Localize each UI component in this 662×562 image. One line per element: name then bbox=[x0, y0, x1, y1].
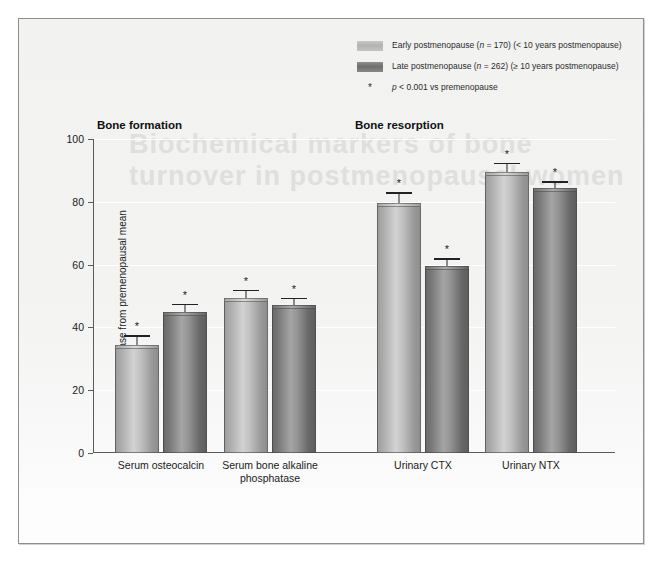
chart-plot-area: 020406080100 % increase from premenopaus… bbox=[93, 139, 615, 453]
error-bar-stem bbox=[399, 192, 400, 203]
category-label-3: Urinary NTX bbox=[456, 459, 606, 472]
error-bar-cap bbox=[281, 298, 307, 300]
error-bar bbox=[386, 192, 412, 203]
asterisk-icon: * bbox=[357, 82, 383, 93]
bar-top-ellipse bbox=[272, 305, 316, 309]
y-tick-80 bbox=[88, 202, 93, 203]
y-tick-20 bbox=[88, 390, 93, 391]
significance-asterisk: * bbox=[183, 291, 187, 299]
legend-swatch-late bbox=[357, 62, 383, 72]
y-tick-label-40: 40 bbox=[72, 321, 84, 333]
legend-footnote-text: p < 0.001 vs premenopause bbox=[392, 82, 498, 93]
y-tick-40 bbox=[88, 327, 93, 328]
significance-asterisk: * bbox=[445, 245, 449, 253]
legend-label-early: Early postmenopause (n = 170) (< 10 year… bbox=[392, 40, 622, 51]
figure-page: Biochemical markers of bone turnover in … bbox=[0, 0, 662, 562]
bar-rect bbox=[377, 203, 421, 453]
bar-early-1[interactable]: * bbox=[224, 139, 268, 453]
bar-rect bbox=[224, 298, 268, 453]
error-bar-cap bbox=[386, 192, 412, 194]
bar-early-3[interactable]: * bbox=[485, 139, 529, 453]
section-heading-bone-formation: Bone formation bbox=[97, 119, 182, 131]
error-bar bbox=[124, 335, 150, 344]
error-bar bbox=[542, 181, 568, 187]
bar-early-2[interactable]: * bbox=[377, 139, 421, 453]
error-bar bbox=[281, 298, 307, 306]
bar-top-ellipse bbox=[163, 312, 207, 316]
error-bar-cap bbox=[434, 258, 460, 260]
error-bar-cap bbox=[494, 163, 520, 165]
category-label-line: Serum bone alkaline bbox=[195, 459, 345, 472]
error-bar-cap bbox=[172, 304, 198, 306]
legend-significance-note: * p < 0.001 vs premenopause bbox=[357, 81, 622, 93]
significance-asterisk: * bbox=[553, 168, 557, 176]
bar-rect bbox=[272, 305, 316, 453]
bar-late-2[interactable]: * bbox=[425, 139, 469, 453]
y-tick-100 bbox=[88, 139, 93, 140]
y-tick-label-0: 0 bbox=[78, 447, 84, 459]
bar-top-ellipse bbox=[224, 298, 268, 302]
y-tick-60 bbox=[88, 265, 93, 266]
y-axis-line bbox=[93, 139, 94, 453]
significance-asterisk: * bbox=[135, 322, 139, 330]
bar-top-ellipse bbox=[485, 172, 529, 176]
y-tick-label-20: 20 bbox=[72, 384, 84, 396]
legend-label-late: Late postmenopause (n = 262) (≥ 10 years… bbox=[392, 61, 619, 72]
error-bar bbox=[233, 290, 259, 298]
chart-legend: Early postmenopause (n = 170) (< 10 year… bbox=[357, 39, 622, 93]
bar-late-0[interactable]: * bbox=[163, 139, 207, 453]
bar-top-ellipse bbox=[425, 266, 469, 270]
error-bar-cap bbox=[124, 335, 150, 337]
y-tick-label-60: 60 bbox=[72, 259, 84, 271]
significance-asterisk: * bbox=[244, 277, 248, 285]
bar-rect bbox=[485, 172, 529, 453]
category-label-line: Urinary NTX bbox=[456, 459, 606, 472]
significance-asterisk: * bbox=[505, 150, 509, 158]
bar-top-ellipse bbox=[377, 203, 421, 207]
category-label-1: Serum bone alkalinephosphatase bbox=[195, 459, 345, 485]
error-bar-cap bbox=[542, 181, 568, 183]
bar-rect bbox=[425, 266, 469, 453]
bar-rect bbox=[115, 345, 159, 453]
category-label-line: phosphatase bbox=[195, 472, 345, 485]
y-tick-label-100: 100 bbox=[66, 133, 84, 145]
bar-late-3[interactable]: * bbox=[533, 139, 577, 453]
section-heading-bone-resorption: Bone resorption bbox=[355, 119, 444, 131]
bar-early-0[interactable]: * bbox=[115, 139, 159, 453]
significance-asterisk: * bbox=[292, 285, 296, 293]
figure-frame: Biochemical markers of bone turnover in … bbox=[18, 18, 644, 544]
legend-swatch-early bbox=[357, 41, 383, 51]
error-bar-cap bbox=[233, 290, 259, 292]
y-tick-label-80: 80 bbox=[72, 196, 84, 208]
bar-late-1[interactable]: * bbox=[272, 139, 316, 453]
bar-rect bbox=[163, 312, 207, 453]
bar-top-ellipse bbox=[533, 188, 577, 192]
significance-asterisk: * bbox=[397, 179, 401, 187]
error-bar bbox=[172, 304, 198, 312]
bar-rect bbox=[533, 188, 577, 453]
bar-top-ellipse bbox=[115, 345, 159, 349]
error-bar bbox=[434, 258, 460, 266]
y-tick-0 bbox=[88, 453, 93, 454]
legend-item-late: Late postmenopause (n = 262) (≥ 10 years… bbox=[357, 60, 622, 73]
error-bar bbox=[494, 163, 520, 172]
legend-item-early: Early postmenopause (n = 170) (< 10 year… bbox=[357, 39, 622, 52]
